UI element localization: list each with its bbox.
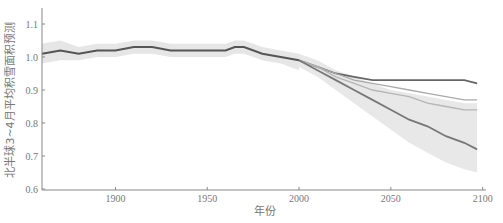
x-tick-label: 1950 — [197, 193, 217, 204]
x-tick-label: 2050 — [381, 193, 401, 204]
y-axis-label: 北半球3~4月平均积雪面积预测 — [3, 22, 17, 177]
y-tick-label: 1.1 — [26, 19, 39, 30]
y-tick-label: 0.7 — [26, 151, 39, 162]
x-tick-label: 2100 — [473, 193, 493, 204]
y-tick-label: 1.0 — [26, 52, 39, 63]
x-axis-label: 年份 — [254, 204, 276, 218]
y-tick-label: 0.8 — [26, 118, 39, 129]
y-tick-label: 0.6 — [26, 184, 39, 195]
x-tick-label: 2000 — [289, 193, 309, 204]
y-tick-label: 0.9 — [26, 85, 39, 96]
historical-band — [42, 41, 299, 71]
x-tick-label: 1900 — [105, 193, 125, 204]
snow-cover-chart: 0.60.70.80.91.01.1 19001950200020502100 … — [0, 0, 503, 223]
uncertainty-bands — [42, 41, 477, 173]
